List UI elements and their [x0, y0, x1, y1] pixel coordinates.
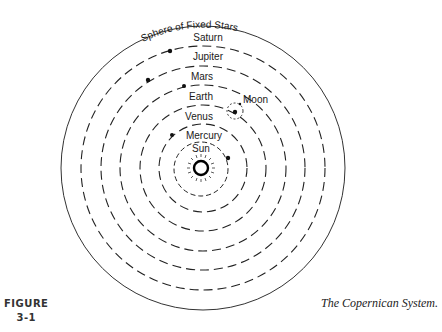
label-saturn: Saturn: [193, 32, 222, 43]
figure-label-word: FIGURE: [4, 297, 48, 311]
label-moon: Moon: [243, 94, 268, 105]
planet-mars: [182, 84, 186, 88]
planet-venus: [170, 133, 174, 137]
label-earth: Earth: [189, 91, 213, 102]
label-mars: Mars: [191, 71, 213, 82]
orbit-mars: [120, 85, 286, 251]
label-mercury: Mercury: [186, 130, 222, 141]
label-venus: Venus: [185, 111, 213, 122]
label-jupiter: Jupiter: [193, 51, 224, 62]
planet-saturn: [168, 49, 172, 53]
copernican-diagram: Sphere of Fixed Stars Saturn Jupiter Mar…: [0, 0, 442, 332]
planet-jupiter: [146, 78, 150, 82]
label-sphere-of-fixed-stars: Sphere of Fixed Stars: [139, 19, 239, 44]
figure-label: FIGURE 3-1: [4, 297, 48, 325]
figure-caption: The Copernican System.: [321, 296, 438, 311]
figure-number: 3-1: [4, 311, 48, 325]
sphere-of-fixed-stars: [61, 26, 345, 310]
sun-icon: [187, 154, 215, 182]
planet-moon: [239, 103, 241, 105]
planet-earth: [233, 110, 237, 114]
orbit-saturn: [81, 46, 325, 290]
label-sun: Sun: [192, 143, 210, 154]
planet-mercury: [226, 156, 230, 160]
